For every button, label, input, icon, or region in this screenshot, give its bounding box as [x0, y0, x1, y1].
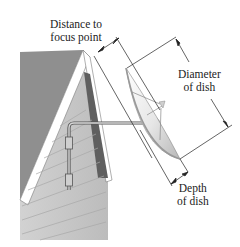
label-line: Diameter [178, 68, 221, 81]
label-distance-to-focus: Distance to focus point [50, 18, 102, 44]
satellite-dish [126, 68, 180, 159]
label-line: of dish [177, 195, 209, 208]
label-line: focus point [50, 31, 102, 44]
label-diameter-of-dish: Diameter of dish [178, 68, 221, 94]
dimension-lines [94, 37, 232, 186]
diagram-canvas [0, 0, 240, 247]
mount-bracket-top [66, 137, 73, 149]
mount-bracket-bottom [66, 174, 73, 186]
label-line: Distance to [50, 18, 102, 31]
label-depth-of-dish: Depth of dish [177, 182, 209, 208]
label-line: of dish [178, 81, 221, 94]
label-line: Depth [177, 182, 209, 195]
